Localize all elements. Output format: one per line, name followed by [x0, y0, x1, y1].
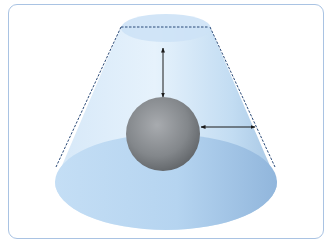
sphere — [126, 97, 200, 171]
frustum-top-face — [121, 14, 211, 42]
frustum-sphere-diagram — [0, 0, 332, 247]
